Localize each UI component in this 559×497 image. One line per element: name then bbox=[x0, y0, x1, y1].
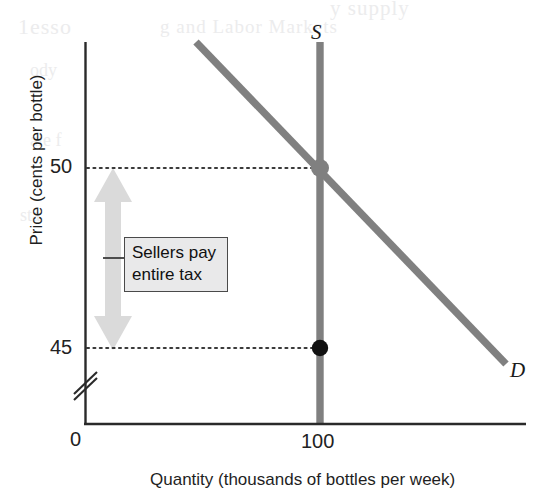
x-axis-title: Quantity (thousands of bottles per week) bbox=[150, 470, 455, 490]
sellers-pay-entire-tax-callout: Sellers pay entire tax bbox=[124, 237, 228, 292]
demand-curve-label: D bbox=[510, 358, 525, 383]
supply-demand-figure: y supply g and Labor Markets 1esso ody a… bbox=[0, 0, 559, 497]
origin-label: 0 bbox=[70, 428, 81, 451]
y-axis-title: Price (cents per bottle) bbox=[27, 50, 47, 270]
y-tick-label-50: 50 bbox=[50, 155, 72, 178]
supply-curve-label: S bbox=[311, 20, 322, 45]
after-tax-price-marker bbox=[312, 340, 328, 356]
callout-line-2: entire tax bbox=[132, 264, 221, 286]
y-tick-label-45: 45 bbox=[50, 336, 72, 359]
plot-canvas bbox=[0, 0, 559, 497]
callout-line-1: Sellers pay bbox=[132, 242, 221, 264]
x-tick-label-100: 100 bbox=[301, 430, 334, 453]
equilibrium-point-marker bbox=[311, 159, 329, 177]
demand-curve bbox=[196, 42, 506, 364]
